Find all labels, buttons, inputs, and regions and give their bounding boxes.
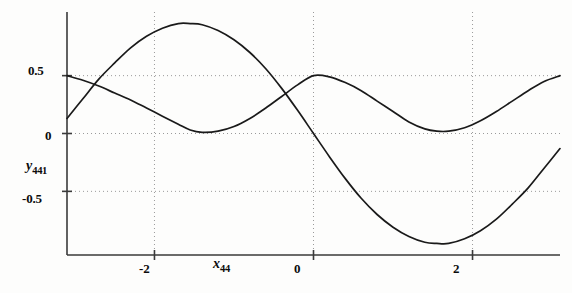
y-axis-title: y441 bbox=[26, 158, 47, 176]
y-tick-label-minus-0.5: -0.5 bbox=[22, 191, 42, 207]
x-tick-label-2: 2 bbox=[453, 261, 459, 277]
x-axis-title: x44 bbox=[213, 256, 230, 274]
x-axis-title-subscript: 44 bbox=[220, 263, 230, 274]
x-tick-label-minus-2: -2 bbox=[139, 261, 149, 277]
x-tick-label-0: 0 bbox=[294, 261, 300, 277]
x-axis-title-base: x bbox=[213, 256, 220, 271]
y-tick-label-0.5: 0.5 bbox=[28, 63, 44, 79]
data-curve-raised-cosine bbox=[67, 75, 560, 132]
plot-canvas bbox=[0, 0, 572, 293]
y-axis-title-subscript: 441 bbox=[32, 165, 47, 176]
chart-figure: 0.5 0 -0.5 -2 0 2 y441 x44 bbox=[0, 0, 572, 293]
y-tick-label-0: 0 bbox=[45, 128, 51, 144]
